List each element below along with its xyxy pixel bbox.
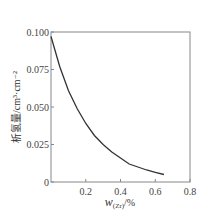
y-axis-ticks: 00.0250.0500.0750.100 <box>27 27 55 188</box>
chart: 0.20.40.60.8 00.0250.0500.0750.100 w(Zr)… <box>0 0 210 221</box>
y-tick-label: 0.025 <box>27 139 50 150</box>
y-tick-label: 0.050 <box>27 102 50 113</box>
x-tick-label: 0.4 <box>114 186 127 197</box>
y-axis-title: 析氢量/cm³·cm⁻² <box>10 71 22 143</box>
x-tick-label: 0.6 <box>149 186 162 197</box>
y-tick-label: 0.100 <box>27 27 50 38</box>
plot-frame <box>51 32 190 182</box>
data-line <box>51 37 164 175</box>
x-axis-title: w(Zr)/% <box>105 195 135 210</box>
y-tick-label: 0.075 <box>27 64 50 75</box>
x-tick-label: 0.2 <box>80 186 93 197</box>
x-tick-label: 0.8 <box>184 186 197 197</box>
y-tick-label: 0 <box>44 177 49 188</box>
